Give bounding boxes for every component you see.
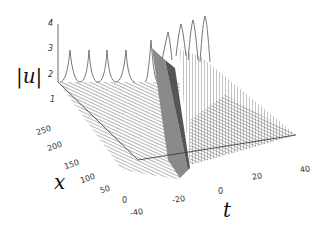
- z-axis-title: |u|: [16, 64, 42, 88]
- z-tick-1: 1: [50, 95, 55, 104]
- z-tick-4: 4: [48, 19, 53, 28]
- t-axis-title: t: [223, 198, 231, 222]
- wall-right: [180, 50, 296, 165]
- t-tick-20: 20: [251, 171, 263, 182]
- x-axis-title: x: [54, 170, 65, 194]
- t-tick-40: 40: [299, 164, 311, 175]
- x-tick-0: 0: [122, 196, 127, 205]
- surface-plot: [0, 0, 328, 231]
- z-tick-3: 3: [48, 44, 53, 53]
- z-tick-2: 2: [48, 70, 53, 79]
- t-tick-0: 0: [218, 187, 223, 196]
